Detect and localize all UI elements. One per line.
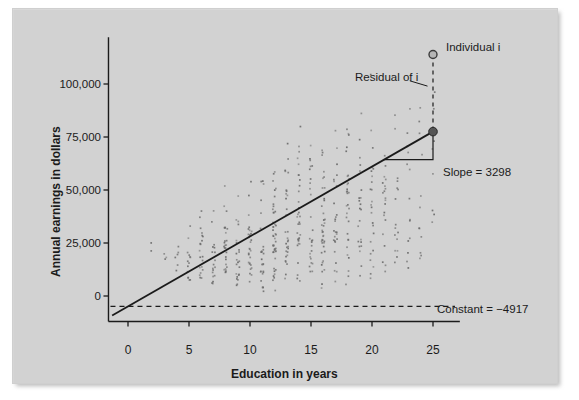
scatter-point — [287, 239, 289, 241]
scatter-point — [335, 216, 337, 218]
residual-of-i-label: Residual of i — [355, 71, 418, 83]
scatter-point — [336, 214, 338, 216]
scatter-point — [335, 130, 337, 132]
scatter-point — [273, 268, 275, 270]
scatter-point — [211, 251, 213, 253]
scatter-point — [334, 218, 336, 220]
scatter-point — [260, 280, 262, 282]
scatter-point — [236, 259, 238, 261]
scatter-point — [236, 283, 238, 285]
scatter-point — [407, 132, 409, 134]
scatter-point — [348, 270, 350, 272]
scatter-point — [273, 275, 275, 277]
scatter-point — [261, 250, 263, 252]
scatter-point — [223, 205, 225, 207]
scatter-point — [394, 128, 396, 130]
scatter-point — [321, 149, 323, 151]
scatter-point — [248, 234, 250, 236]
scatter-point — [360, 239, 362, 241]
scatter-point — [309, 168, 311, 170]
scatter-point — [384, 245, 386, 247]
scatter-point — [213, 210, 215, 212]
scatter-point — [274, 171, 276, 173]
scatter-point — [274, 196, 276, 198]
scatter-point — [249, 230, 251, 232]
scatter-point — [384, 155, 386, 157]
scatter-point — [297, 213, 299, 215]
scatter-point — [177, 264, 179, 266]
scatter-point — [345, 284, 347, 286]
scatter-point — [357, 225, 359, 227]
scatter-point — [260, 212, 262, 214]
scatter-point — [324, 219, 326, 221]
scatter-point — [177, 252, 179, 254]
scatter-point — [299, 234, 301, 236]
individual-i-point — [429, 51, 437, 59]
scatter-point — [321, 154, 323, 156]
scatter-point — [358, 197, 360, 199]
scatter-point — [407, 252, 409, 254]
scatter-point — [223, 269, 225, 271]
scatter-point — [359, 139, 361, 141]
scatter-point — [324, 187, 326, 189]
scatter-point — [250, 181, 252, 183]
scatter-point — [225, 244, 227, 246]
scatter-point — [347, 239, 349, 241]
scatter-point — [419, 258, 421, 260]
scatter-point — [225, 256, 227, 258]
figure-panel: 100,000 75,000 50,000 25,000 0 0 5 10 15… — [12, 8, 558, 384]
scatter-point — [348, 208, 350, 210]
scatter-point — [296, 278, 298, 280]
scatter-point — [274, 189, 276, 191]
scatter-point — [150, 242, 152, 244]
scatter-point — [321, 205, 323, 207]
scatter-point — [212, 268, 214, 270]
scatter-point — [434, 91, 436, 93]
scatter-point — [273, 251, 275, 253]
scatter-point — [213, 264, 215, 266]
scatter-point — [187, 260, 189, 262]
scatter-point — [260, 228, 262, 230]
scatter-point — [298, 163, 300, 165]
scatter-point — [272, 229, 274, 231]
scatter-point — [225, 232, 227, 234]
scatter-point — [346, 212, 348, 214]
scatter-point — [419, 207, 421, 209]
scatter-point — [311, 245, 313, 247]
scatter-point — [309, 253, 311, 255]
scatter-point — [394, 234, 396, 236]
scatter-point — [409, 108, 411, 110]
scatter-point — [361, 113, 363, 115]
scatter-point — [189, 279, 191, 281]
scatter-point — [371, 181, 373, 183]
scatter-point — [394, 250, 396, 252]
scatter-point — [273, 173, 275, 175]
scatter-point — [359, 250, 361, 252]
scatter-point — [311, 165, 313, 167]
scatter-point — [297, 223, 299, 225]
scatter-point — [287, 195, 289, 197]
scatter-point — [202, 256, 204, 258]
x-tick-label-15: 15 — [291, 343, 331, 357]
scatter-point — [370, 273, 372, 275]
scatter-point — [323, 242, 325, 244]
scatter-point — [287, 231, 289, 233]
scatter-point — [373, 266, 375, 268]
scatter-point — [409, 169, 411, 171]
scatter-point — [371, 170, 373, 172]
scatter-point — [284, 170, 286, 172]
scatter-point — [346, 191, 348, 193]
scatter-point — [199, 216, 201, 218]
scatter-point — [409, 237, 411, 239]
scatter-point — [397, 177, 399, 179]
scatter-point — [419, 107, 421, 109]
scatter-point — [346, 146, 348, 148]
scatter-point — [382, 192, 384, 194]
scatter-point — [300, 126, 302, 128]
scatter-point — [312, 263, 314, 265]
scatter-point — [224, 227, 226, 229]
scatter-point — [348, 221, 350, 223]
scatter-point — [322, 152, 324, 154]
x-tick-label-5: 5 — [169, 343, 209, 357]
scatter-point — [250, 250, 252, 252]
